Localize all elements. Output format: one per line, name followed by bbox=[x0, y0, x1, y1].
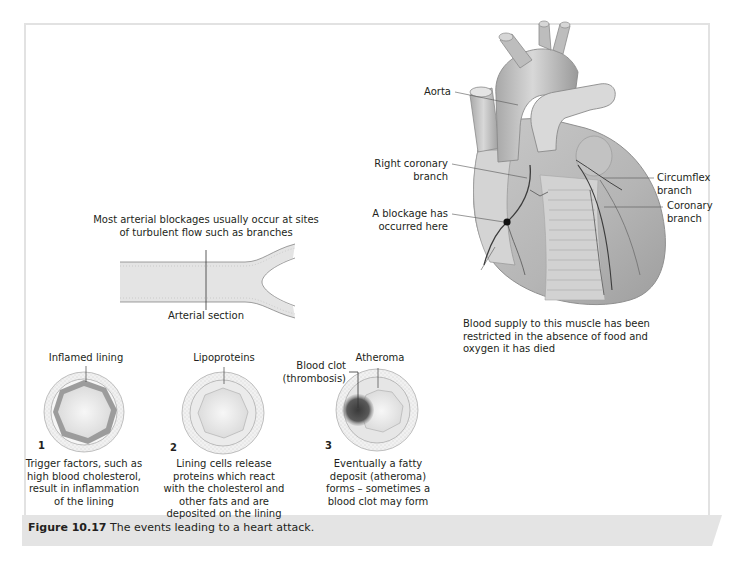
right-coronary-label-line-2: branch bbox=[366, 171, 448, 184]
right-coronary-label-line-1: Right coronary bbox=[366, 158, 448, 171]
stage-1-label: Inflamed lining bbox=[44, 352, 128, 365]
artery-heading: Most arterial blockages usually occur at… bbox=[90, 214, 322, 239]
aortic-branch-2 bbox=[539, 24, 551, 50]
stage-1-description: Trigger factors, such as high blood chol… bbox=[24, 458, 144, 508]
artery-heading-line-2: of turbulent flow such as branches bbox=[90, 227, 322, 240]
blood-supply-label: Blood supply to this muscle has been res… bbox=[463, 318, 650, 356]
right-coronary-label: Right coronary branch bbox=[366, 158, 448, 183]
stage-2-diagram bbox=[182, 367, 264, 454]
stage-3-desc-line-2: deposit (atheroma) bbox=[316, 471, 440, 484]
blood-supply-line-2: restricted in the absence of food and bbox=[463, 331, 650, 344]
blood-supply-line-3: oxygen it has died bbox=[463, 343, 650, 356]
stage-3-desc-line-1: Eventually a fatty bbox=[316, 458, 440, 471]
stage-3-description: Eventually a fatty deposit (atheroma) fo… bbox=[316, 458, 440, 508]
vena-cava bbox=[470, 88, 500, 152]
circumflex-label: Circumflex branch bbox=[657, 172, 710, 197]
blockage-label: A blockage has occurred here bbox=[366, 208, 448, 233]
blood-supply-line-1: Blood supply to this muscle has been bbox=[463, 318, 650, 331]
heart-illustration bbox=[452, 21, 665, 305]
stage-2-desc-line-2: proteins which react bbox=[158, 471, 290, 484]
stage-3-number: 3 bbox=[325, 440, 332, 451]
stage-2-desc-line-3: with the cholesterol and bbox=[158, 483, 290, 496]
stage-1-number: 1 bbox=[38, 440, 45, 451]
stage-1-diagram bbox=[44, 366, 124, 452]
artery-heading-line-1: Most arterial blockages usually occur at… bbox=[90, 214, 322, 227]
stage-3-desc-line-4: blood clot may form bbox=[316, 496, 440, 509]
stage-1-desc-line-3: result in inflammation bbox=[24, 483, 144, 496]
blockage-label-line-1: A blockage has bbox=[366, 208, 448, 221]
coronary-label-line-1: Coronary bbox=[667, 200, 713, 213]
circumflex-label-line-2: branch bbox=[657, 185, 710, 198]
stage-1-desc-line-2: high blood cholesterol, bbox=[24, 471, 144, 484]
ventricle-muscle bbox=[540, 175, 605, 300]
coronary-label: Coronary branch bbox=[667, 200, 713, 225]
blockage-label-line-2: occurred here bbox=[366, 221, 448, 234]
blood-clot-label: Blood clot (thrombosis) bbox=[280, 360, 346, 385]
stage-1-desc-line-1: Trigger factors, such as bbox=[24, 458, 144, 471]
arterial-section-label: Arterial section bbox=[160, 310, 252, 323]
coronary-label-line-2: branch bbox=[667, 213, 713, 226]
stage-2-desc-line-1: Lining cells release bbox=[158, 458, 290, 471]
stage-3-desc-line-3: forms – sometimes a bbox=[316, 483, 440, 496]
circumflex-label-line-1: Circumflex bbox=[657, 172, 710, 185]
aortic-branch-3 bbox=[553, 24, 570, 54]
stage-3-label: Atheroma bbox=[345, 352, 415, 365]
stage-2-label: Lipoproteins bbox=[184, 352, 264, 365]
stage-2-description: Lining cells release proteins which reac… bbox=[158, 458, 290, 521]
stage-2-number: 2 bbox=[170, 442, 177, 453]
stage-1-desc-line-4: of the lining bbox=[24, 496, 144, 509]
aorta-label: Aorta bbox=[396, 86, 451, 99]
stage-2-desc-line-4: other fats and are bbox=[158, 496, 290, 509]
arterial-section-diagram bbox=[120, 244, 295, 318]
blood-clot-label-line-1: Blood clot bbox=[280, 360, 346, 373]
blockage-marker bbox=[503, 218, 510, 225]
blood-clot-label-line-2: (thrombosis) bbox=[280, 373, 346, 386]
stage-2-desc-line-5: deposited on the lining bbox=[158, 508, 290, 521]
stage-3-diagram bbox=[336, 368, 418, 451]
